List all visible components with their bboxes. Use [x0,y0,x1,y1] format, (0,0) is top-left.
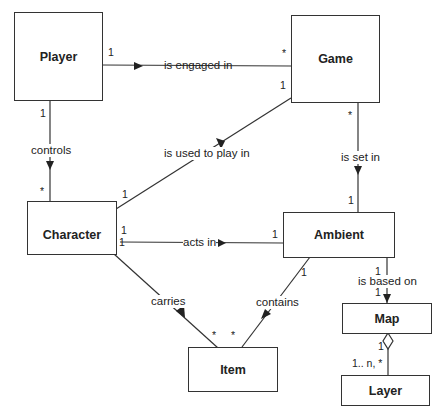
label-is-engaged-in: is engaged in [164,59,232,72]
mult-layer-aggregation: 1.. n, * [352,358,382,369]
mult-ambient-based: 1 [375,266,381,277]
mult-player-engaged: 1 [108,47,114,58]
label-is-used-to-play-in: is used to play in [164,147,250,160]
class-character[interactable]: Character [27,201,117,255]
class-name: Game [318,52,353,66]
label-controls: controls [31,144,71,157]
mult-game-used: 1 [280,80,286,91]
mult-player-controls: 1 [40,108,46,119]
mult-map-based: 1 [375,287,381,298]
mult-character-controls: * [40,186,44,197]
label-is-set-in: is set in [341,151,380,164]
class-name: Map [375,312,400,326]
class-ambient[interactable]: Ambient [283,212,395,258]
class-name: Ambient [314,228,364,242]
mult-game-setin: * [348,110,352,121]
class-player[interactable]: Player [14,12,103,101]
class-game[interactable]: Game [291,15,380,103]
mult-character-used: 1 [122,189,128,200]
mult-ambient-contains: 1 [301,267,307,278]
class-map[interactable]: Map [342,303,432,334]
mult-game-engaged: * [282,48,286,59]
label-acts-in: acts in [183,236,216,249]
mult-ambient-acts: 1 [272,229,278,240]
mult-item-contains: * [231,330,235,341]
mult-character-acts-2: 1 [119,237,125,248]
class-name: Layer [369,384,402,398]
class-name: Item [220,363,246,377]
class-layer[interactable]: Layer [341,375,430,406]
class-name: Player [40,50,78,64]
label-carries: carries [151,295,186,308]
label-is-based-on: is based on [358,275,417,288]
mult-map-aggregation: 1 [378,341,384,352]
class-name: Character [43,228,101,242]
mult-item-carries: * [212,330,216,341]
mult-ambient-setin: 1 [348,195,354,206]
mult-character-acts-1: 1 [121,225,127,236]
class-item[interactable]: Item [188,347,278,392]
label-contains: contains [256,296,299,309]
